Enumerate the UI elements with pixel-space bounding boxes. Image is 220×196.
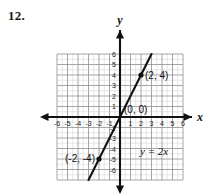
y-tick-label: 3 (112, 82, 116, 89)
point-label-origin: (0, 0) (124, 104, 147, 115)
equation-label: y = 2x (139, 145, 168, 157)
x-tick-label: -3 (85, 120, 91, 127)
point-label-upper: (2, 4) (145, 70, 168, 81)
y-tick-label: 4 (112, 72, 116, 79)
worksheet-problem-figure: 12. (0, 0, 220, 196)
x-tick-label: 3 (150, 120, 154, 127)
data-point-2-4 (138, 72, 143, 77)
y-axis-arrow-up (116, 30, 124, 39)
data-point-neg2-neg4 (96, 156, 101, 161)
x-tick-label: -5 (64, 120, 70, 127)
x-tick-label: -2 (96, 120, 102, 127)
y-axis-arrow-down (116, 186, 124, 195)
x-tick-label: 1 (129, 120, 133, 127)
x-tick-label: 4 (160, 120, 164, 127)
x-axis-arrow-left (40, 113, 49, 121)
x-axis-label: x (196, 110, 203, 124)
y-tick-label: 2 (112, 93, 116, 100)
x-tick-label: -6 (54, 120, 60, 127)
y-tick-label: 5 (112, 61, 116, 68)
x-tick-label: 6 (181, 120, 185, 127)
coordinate-plane-svg: -6 -5 -4 -3 -2 -1 1 2 3 4 5 6 6 5 4 3 2 … (0, 0, 220, 196)
x-tick-label: 5 (171, 120, 175, 127)
y-tick-label: 6 (112, 51, 116, 58)
y-tick-label: -6 (110, 167, 116, 174)
x-tick-label: -4 (75, 120, 81, 127)
y-tick-label: -5 (110, 156, 116, 163)
graph-figure: -6 -5 -4 -3 -2 -1 1 2 3 4 5 6 6 5 4 3 2 … (0, 0, 220, 196)
y-axis-label: y (115, 13, 123, 27)
y-tick-label: -4 (110, 146, 116, 153)
y-tick-label: 1 (112, 103, 116, 110)
x-tick-label: 2 (139, 120, 143, 127)
point-label-lower: (-2, -4) (65, 153, 95, 164)
